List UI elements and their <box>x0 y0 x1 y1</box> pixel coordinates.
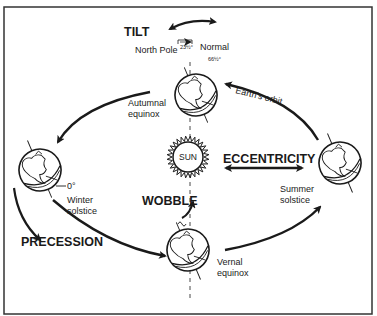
sun-ray <box>188 136 192 141</box>
sun-ray <box>192 171 195 176</box>
earth-summer-icon <box>308 125 372 200</box>
summer-label-line1: Summer <box>280 184 314 194</box>
vernal-label-line1: Vernal <box>217 257 243 267</box>
sun-ray <box>184 136 188 141</box>
autumnal-label-line2: equinox <box>128 109 160 119</box>
milankovitch-diagram: SUN TILT North Pole Normal 23½° 66½° Ear… <box>0 0 377 316</box>
sun-ray <box>202 161 207 164</box>
sun-ray <box>167 153 172 157</box>
tilt-arrow <box>170 21 215 29</box>
north-pole-label: North Pole <box>135 45 178 55</box>
sun-ray <box>184 173 188 178</box>
sun-ray <box>202 150 207 153</box>
sun-label: SUN <box>179 152 197 162</box>
eccentricity-label: ECCENTRICITY <box>223 152 316 166</box>
sun-ray <box>168 150 173 153</box>
normal-angle-label: 66½° <box>208 56 221 62</box>
winter-label-line2: solstice <box>67 206 97 216</box>
sun-ray <box>168 161 173 164</box>
sun-ray <box>181 171 184 176</box>
sun-ray <box>204 157 209 161</box>
earth-winter-icon <box>8 132 71 205</box>
sun-ray <box>167 157 172 161</box>
summer-label-line2: solstice <box>280 195 310 205</box>
zero-degree-label: 0° <box>67 181 76 191</box>
autumnal-label-line1: Autumnal <box>128 98 166 108</box>
normal-label: Normal <box>200 42 229 52</box>
earths-orbit-label: Earth's orbit <box>235 85 284 106</box>
earth-vernal-icon <box>157 214 220 287</box>
orbit-arrow-vernal-to-summer <box>225 207 320 250</box>
wobble-label: WOBBLE <box>142 194 198 208</box>
sun-ray <box>192 137 195 142</box>
wobble-squiggle <box>178 222 186 226</box>
winter-label-line1: Winter <box>67 195 93 205</box>
sun-ray <box>204 153 209 157</box>
vernal-label-line2: equinox <box>217 268 249 278</box>
tilt-angle-label: 23½° <box>180 44 193 50</box>
sun-ray <box>181 137 184 142</box>
earth-autumnal-icon <box>165 59 227 131</box>
precession-arrow <box>14 188 40 240</box>
precession-label: PRECESSION <box>21 235 103 249</box>
tilt-label: TILT <box>124 25 150 39</box>
